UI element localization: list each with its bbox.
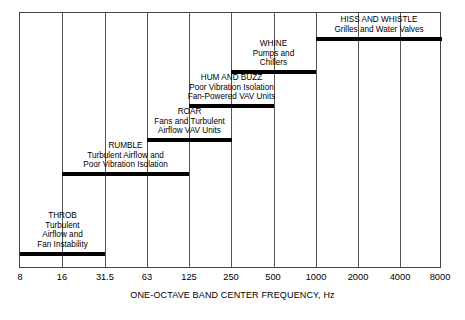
- x-tick-250: 250: [223, 271, 239, 283]
- x-tick-63: 63: [142, 271, 152, 283]
- band-subtitle-throb-3: Fan Instability: [17, 240, 108, 250]
- band-subtitle-roar-2: Airflow VAV Units: [109, 126, 270, 136]
- x-tick-4000: 4000: [390, 271, 411, 283]
- x-axis-title: ONE-OCTAVE BAND CENTER FREQUENCY, Hz: [0, 290, 465, 300]
- band-label-hiss-and-whistle: HISS AND WHISTLE Grilles and Water Valve…: [316, 15, 442, 34]
- band-bar-hiss-and-whistle: [316, 37, 442, 41]
- x-tick-8: 8: [17, 271, 22, 283]
- band-subtitle-roar-1: Fans and Turbulent: [109, 117, 270, 127]
- band-bar-rumble: [62, 172, 189, 176]
- band-title-throb: THROB: [17, 211, 108, 221]
- x-axis-tick-labels: 8 16 31.5 63 125 250 500 1000 2000 4000 …: [0, 271, 465, 285]
- band-subtitle-hum-and-buzz-1: Poor Vibration Isolation: [158, 83, 305, 93]
- band-title-hiss-and-whistle: HISS AND WHISTLE: [316, 15, 442, 25]
- x-tick-500: 500: [265, 271, 281, 283]
- band-label-rumble: RUMBLE Turbulent Airflow and Poor Vibrat…: [62, 141, 189, 170]
- band-label-roar: ROAR Fans and Turbulent Airflow VAV Unit…: [109, 107, 270, 136]
- band-label-hum-and-buzz: HUM AND BUZZ Poor Vibration Isolation Fa…: [158, 73, 305, 102]
- x-tick-8000: 8000: [430, 271, 451, 283]
- band-subtitle-whine-2: Chillers: [220, 58, 327, 68]
- x-tick-125: 125: [181, 271, 197, 283]
- band-title-roar: ROAR: [109, 107, 270, 117]
- band-title-hum-and-buzz: HUM AND BUZZ: [158, 73, 305, 83]
- band-subtitle-hum-and-buzz-2: Fan-Powered VAV Units: [158, 92, 305, 102]
- band-bar-throb: [20, 252, 105, 256]
- band-title-whine: WHINE: [220, 39, 327, 49]
- x-tick-2000: 2000: [348, 271, 369, 283]
- plot-frame: HISS AND WHISTLE Grilles and Water Valve…: [19, 12, 441, 268]
- band-title-rumble: RUMBLE: [62, 141, 189, 151]
- band-label-whine: WHINE Pumps and Chillers: [220, 39, 327, 68]
- gridline-2000: [358, 13, 359, 267]
- band-subtitle-throb-1: Turbulent: [17, 221, 108, 231]
- band-subtitle-rumble-1: Turbulent Airflow and: [62, 151, 189, 161]
- x-tick-16: 16: [57, 271, 67, 283]
- x-tick-31_5: 31.5: [96, 271, 114, 283]
- x-tick-1000: 1000: [306, 271, 327, 283]
- band-label-throb: THROB Turbulent Airflow and Fan Instabil…: [17, 211, 108, 249]
- band-subtitle-whine-1: Pumps and: [220, 49, 327, 59]
- band-subtitle-hiss-and-whistle-1: Grilles and Water Valves: [316, 25, 442, 35]
- band-subtitle-throb-2: Airflow and: [17, 230, 108, 240]
- band-subtitle-rumble-2: Poor Vibration Isolation: [62, 160, 189, 170]
- hvac-noise-frequency-chart: HISS AND WHISTLE Grilles and Water Valve…: [0, 0, 465, 320]
- gridline-4000: [400, 13, 401, 267]
